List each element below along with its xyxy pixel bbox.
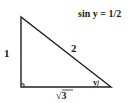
equation-label: sin y = 1/2	[78, 8, 121, 19]
right-triangle	[21, 17, 111, 87]
side-label-vertical: 1	[4, 47, 10, 59]
triangle-diagram: sin y = 1/2 1 2 y √3	[0, 0, 128, 103]
side-label-hypotenuse: 2	[71, 42, 77, 54]
angle-label: y	[93, 77, 98, 87]
side-label-horizontal: √3	[56, 90, 67, 101]
